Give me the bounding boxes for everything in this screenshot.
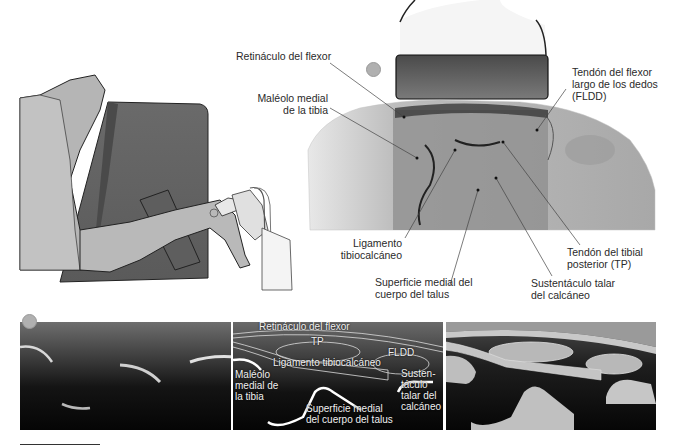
label-ligamento-line2: tibiocalcáneo	[340, 249, 402, 261]
us-label-fldd: FLDD	[388, 347, 414, 358]
us-label-maleolo-line3: la tibia	[235, 391, 278, 402]
us-label-maleolo: Maléolo medial de la tibia	[235, 369, 278, 402]
ultrasound-panel-schematic	[446, 322, 656, 430]
label-fldd: Tendón del flexor largo de los dedos (FL…	[572, 66, 658, 102]
us-label-ligamento: Ligamento tibiocalcáneo	[273, 357, 381, 368]
label-tp-line1: Tendón del tibial	[567, 246, 643, 258]
label-maleolo: Maléolo medial de la tibia	[250, 92, 328, 116]
label-fldd-line2: largo de los dedos	[572, 78, 658, 90]
label-ligamento: Ligamento tibiocalcáneo	[340, 237, 402, 261]
us-label-tp: TP	[311, 336, 324, 347]
ultrasound-panel-raw	[20, 322, 231, 430]
us-label-superficie-line2: del cuerpo del talus	[306, 414, 393, 425]
label-sustentaculo-line2: del calcáneo	[531, 289, 615, 301]
us-label-retinaculo: Retináculo del flexor	[259, 322, 350, 332]
label-maleolo-line2: de la tibia	[250, 104, 328, 116]
view-marker-bottom	[22, 314, 37, 329]
label-maleolo-line1: Maléolo medial	[250, 92, 328, 104]
label-superficie: Superficie medial del cuerpo del talus	[375, 276, 472, 300]
us-label-sustentaculo-line3: talar del	[401, 390, 441, 401]
view-marker-top	[366, 62, 381, 77]
label-superficie-line1: Superficie medial del	[375, 276, 472, 288]
us-label-superficie: Superficie medial del cuerpo del talus	[306, 403, 393, 425]
label-sustentaculo-line1: Sustentáculo talar	[531, 277, 615, 289]
us-label-maleolo-line2: medial de	[235, 380, 278, 391]
label-tp: Tendón del tibial posterior (TP)	[567, 246, 643, 270]
us-label-sustentaculo-line4: calcáneo	[401, 401, 441, 412]
ultrasound-panel-annotated: Retináculo del flexor TP FLDD Ligamento …	[233, 322, 443, 430]
label-fldd-line1: Tendón del flexor	[572, 66, 658, 78]
label-ligamento-line1: Ligamento	[340, 237, 402, 249]
label-retinaculo: Retináculo del flexor	[236, 50, 331, 62]
us-label-sustentaculo-line2: táculo	[401, 379, 441, 390]
label-sustentaculo: Sustentáculo talar del calcáneo	[531, 277, 615, 301]
us-label-maleolo-line1: Maléolo	[235, 369, 278, 380]
label-superficie-line2: cuerpo del talus	[375, 288, 472, 300]
label-tp-line2: posterior (TP)	[567, 258, 643, 270]
label-fldd-line3: (FLDD)	[572, 90, 658, 102]
us-label-superficie-line1: Superficie medial	[306, 403, 393, 414]
us-label-sustentaculo-line1: Susten-	[401, 368, 441, 379]
us-label-sustentaculo: Susten- táculo talar del calcáneo	[401, 368, 441, 412]
